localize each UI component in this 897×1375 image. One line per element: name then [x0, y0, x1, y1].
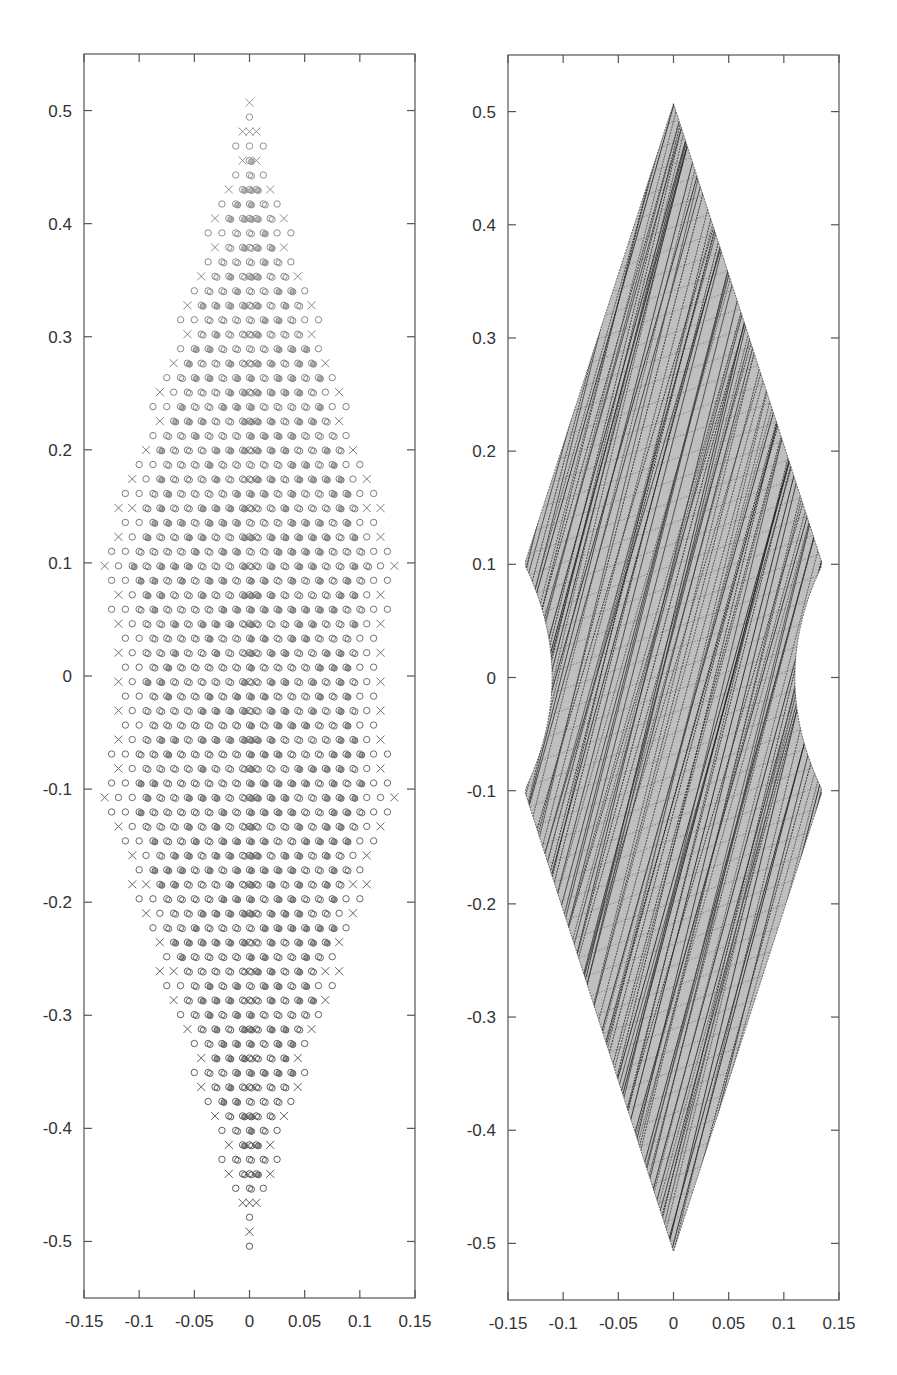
- x-tick-label: 0.1: [772, 1314, 796, 1333]
- mesh-line: [816, 55, 897, 1300]
- y-tick-label: 0.5: [472, 103, 496, 122]
- y-tick-label: -0.2: [467, 895, 496, 914]
- mesh-line: [813, 55, 897, 1300]
- mesh-line: [861, 55, 897, 1300]
- x-tick-label: -0.1: [549, 1314, 578, 1333]
- y-tick-label: 0.1: [472, 555, 496, 574]
- mesh-line: [841, 55, 897, 1300]
- x-tick-label: -0.15: [489, 1314, 528, 1333]
- right-mesh-plot: -0.15-0.1-0.0500.050.10.150.50.40.30.20.…: [0, 0, 897, 1375]
- y-tick-label: -0.4: [467, 1121, 496, 1140]
- mesh-line: [790, 55, 897, 1300]
- mesh-line: [845, 55, 897, 1300]
- mesh-line: [867, 55, 897, 1300]
- mesh-line: [784, 55, 897, 1300]
- mesh-lines: [309, 0, 897, 1300]
- mesh-line: [508, 0, 839, 97]
- mesh-line: [832, 55, 897, 1300]
- y-tick-label: -0.5: [467, 1234, 496, 1253]
- mesh-line: [854, 55, 897, 1300]
- y-tick-label: -0.3: [467, 1008, 496, 1027]
- mesh-line: [797, 55, 897, 1300]
- mesh-line: [793, 55, 897, 1300]
- mesh-line: [857, 55, 897, 1300]
- x-tick-label: 0: [669, 1314, 678, 1333]
- y-tick-label: 0: [487, 669, 496, 688]
- mesh-line: [803, 55, 897, 1300]
- x-tick-label: 0.05: [712, 1314, 745, 1333]
- x-tick-label: -0.05: [599, 1314, 638, 1333]
- mesh-line: [806, 55, 897, 1300]
- mesh-line: [508, 0, 839, 76]
- mesh-line: [787, 55, 897, 1300]
- mesh-line: [851, 55, 897, 1300]
- mesh-line: [819, 55, 897, 1300]
- mesh-line: [508, 0, 839, 55]
- mesh-line: [864, 55, 897, 1300]
- mesh-line: [835, 55, 897, 1300]
- y-tick-label: 0.4: [472, 216, 496, 235]
- mesh-line: [874, 55, 897, 1300]
- y-tick-label: -0.1: [467, 782, 496, 801]
- x-tick-label: 0.15: [822, 1314, 855, 1333]
- mesh-line: [880, 55, 897, 1300]
- y-tick-label: 0.2: [472, 442, 496, 461]
- mesh-line: [883, 55, 897, 1300]
- mesh-line: [877, 55, 897, 1300]
- mesh-line: [848, 55, 897, 1300]
- y-tick-label: 0.3: [472, 329, 496, 348]
- mesh-line: [800, 55, 897, 1300]
- right-plot-canvas: -0.15-0.1-0.0500.050.10.150.50.40.30.20.…: [0, 0, 897, 1375]
- mesh-line: [870, 55, 897, 1300]
- mesh-line: [838, 55, 897, 1300]
- mesh-line: [809, 55, 897, 1300]
